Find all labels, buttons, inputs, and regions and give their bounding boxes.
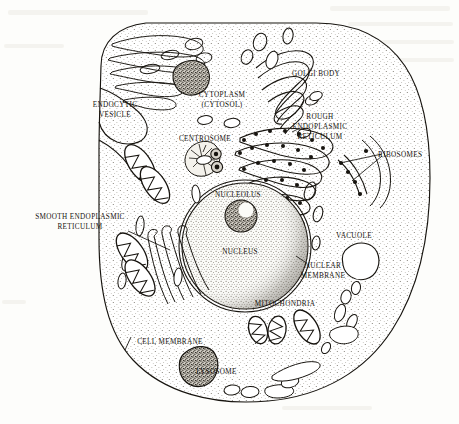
label-rough-er: ROUGH ENDOPLASMIC RETICULUM xyxy=(279,112,361,142)
label-vacuole: VACUOLE xyxy=(324,231,384,241)
label-nuclear-membrane: NUCLEAR MEMBRANE xyxy=(288,261,358,281)
label-endocytic-vesicle: ENDOCYTIC VESICLE xyxy=(75,100,155,120)
label-nucleolus: NUCLEOLUS xyxy=(203,190,273,200)
label-lysosome: LYSOSOME xyxy=(196,367,258,377)
label-smooth-er: SMOOTH ENDOPLASMIC RETICULUM xyxy=(16,212,144,232)
label-cytoplasm: CYTOPLASM (CYTOSOL) xyxy=(182,90,262,110)
nucleolus xyxy=(225,200,257,232)
label-ribosomes: RIBOSOMES xyxy=(378,150,444,160)
label-cell-membrane: CELL MEMBRANE xyxy=(128,337,212,347)
cell-diagram-page: ENDOCYTIC VESICLE CYTOPLASM (CYTOSOL) GO… xyxy=(0,0,459,424)
label-nucleus: NUCLEUS xyxy=(208,247,272,257)
label-golgi-body: GOLGI BODY xyxy=(278,69,354,79)
label-centrosome: CENTROSOME xyxy=(168,134,242,144)
label-mitochondria: MITOCHONDRIA xyxy=(244,299,326,309)
